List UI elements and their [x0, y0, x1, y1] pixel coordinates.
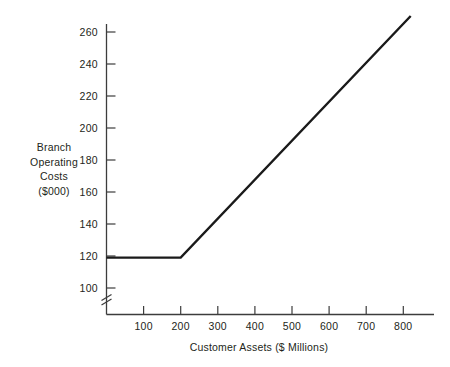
x-tick-label-200: 200 — [164, 320, 198, 332]
x-tick-label-100: 100 — [127, 320, 161, 332]
chart-figure: Branch Operating Costs ($000) 260 240 22… — [0, 0, 450, 367]
y-axis-ticks — [107, 32, 116, 288]
y-tick-label-240: 240 — [62, 58, 98, 70]
y-axis-title-line-1: Branch — [12, 140, 96, 155]
x-axis-title: Customer Assets ($ Millions) — [106, 341, 412, 353]
y-tick-label-180: 180 — [62, 154, 98, 166]
x-tick-label-700: 700 — [349, 320, 383, 332]
y-tick-label-120: 120 — [62, 250, 98, 262]
series-branch-operating-costs — [107, 16, 411, 258]
x-axis-ticks — [144, 306, 404, 315]
y-tick-label-260: 260 — [62, 26, 98, 38]
y-tick-label-100: 100 — [62, 282, 98, 294]
x-tick-label-300: 300 — [201, 320, 235, 332]
y-tick-label-160: 160 — [62, 186, 98, 198]
x-tick-label-500: 500 — [275, 320, 309, 332]
y-tick-label-200: 200 — [62, 122, 98, 134]
x-tick-label-400: 400 — [238, 320, 272, 332]
y-tick-label-140: 140 — [62, 218, 98, 230]
y-axis-title-line-3: Costs — [12, 169, 96, 184]
y-tick-label-220: 220 — [62, 90, 98, 102]
x-tick-label-600: 600 — [312, 320, 346, 332]
x-tick-label-800: 800 — [386, 320, 420, 332]
